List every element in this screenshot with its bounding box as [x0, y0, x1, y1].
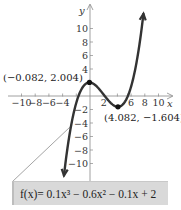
y-tick-label: −6 — [74, 131, 88, 142]
min-point — [115, 104, 120, 109]
x-tick-label: 6 — [128, 97, 134, 108]
function-graph: −10−8−6−42681010864−2−4−6−8−10 x y (−0.0… — [0, 0, 181, 210]
equation-text: f(x)= 0.1x³ − 0.6x² − 0.1x + 2 — [20, 188, 156, 200]
x-axis-label: x — [167, 98, 173, 109]
y-axis-label: y — [78, 5, 85, 16]
equation-box: f(x)= 0.1x³ − 0.6x² − 0.1x + 2 — [12, 181, 168, 205]
x-tick-label: −6 — [42, 97, 56, 108]
max-point — [87, 80, 92, 85]
x-tick-label: 8 — [142, 97, 148, 108]
y-tick-label: 8 — [82, 37, 88, 48]
y-tick-label: 10 — [76, 23, 88, 34]
y-tick-label: −4 — [74, 118, 88, 129]
x-tick-label: −8 — [28, 97, 42, 108]
x-tick-label: 10 — [152, 97, 164, 108]
y-tick-label: −10 — [68, 158, 88, 169]
y-tick-label: −8 — [74, 145, 88, 156]
min-point-label: (4.082, −1.604) — [104, 112, 181, 123]
max-point-label: (−0.082, 2.004) — [3, 72, 83, 83]
x-tick-label: −4 — [56, 97, 70, 108]
equation-leader-line — [12, 127, 70, 182]
y-tick-label: 4 — [82, 64, 88, 75]
y-tick-label: 6 — [82, 50, 88, 61]
